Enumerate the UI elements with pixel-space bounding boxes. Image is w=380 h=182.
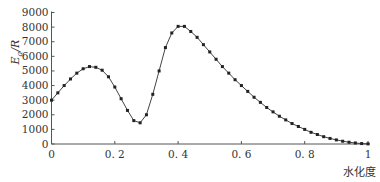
y-axis-label: Ea/R [9,40,24,66]
y-tick-label: 4000 [22,79,49,91]
x-tick-label: 0 [48,148,55,160]
data-point [265,106,268,109]
data-point [367,142,370,145]
data-point [310,131,313,134]
data-point [120,97,123,100]
y-tick-label: 5000 [22,64,49,76]
data-point [56,91,59,94]
data-point [189,30,192,33]
data-point [75,72,78,75]
data-point [303,128,306,131]
y-tick-label: 6000 [22,50,49,62]
y-axis-ticks: 0100020003000400050006000700080009000 [22,6,55,150]
data-line [52,26,369,143]
data-point [253,96,256,99]
data-markers [50,25,370,145]
data-point [145,113,148,116]
data-point [259,101,262,104]
data-point [234,78,237,81]
data-point [183,25,186,28]
data-point [227,72,230,75]
data-point [329,137,332,140]
data-point [88,65,91,68]
data-point [284,118,287,121]
x-tick-label: 0. 6 [231,148,251,160]
y-tick-label: 8000 [22,21,49,33]
data-point [291,122,294,125]
y-tick-label: 3000 [22,94,49,106]
data-point [316,133,319,136]
data-point [170,31,173,34]
data-point [94,66,97,69]
data-point [63,84,66,87]
data-point [322,135,325,138]
data-point [151,93,154,96]
data-point [246,90,249,93]
data-point [240,84,243,87]
data-point [348,141,351,144]
data-point [354,141,357,144]
data-point [196,36,199,39]
x-tick-label: 0. 2 [105,148,125,160]
data-point [177,25,180,28]
y-tick-label: 1000 [22,123,49,135]
line-chart: 0100020003000400050006000700080009000 00… [0,0,380,182]
data-point [215,58,218,61]
data-point [164,46,167,49]
data-point [221,65,224,68]
data-point [139,121,142,124]
data-point [278,115,281,118]
x-axis-label: 水化度 [343,165,376,179]
data-point [272,110,275,113]
data-point [113,86,116,89]
data-point [360,142,363,145]
data-point [126,109,129,112]
data-point [208,50,211,53]
data-point [341,140,344,143]
data-point [101,69,104,72]
data-point [82,67,85,70]
data-point [297,125,300,128]
y-tick-label: 2000 [22,108,49,120]
data-point [69,77,72,80]
x-tick-label: 0. 4 [168,148,188,160]
data-point [158,69,161,72]
x-tick-label: 1 [365,148,372,160]
data-point [132,119,135,122]
data-point [335,138,338,141]
data-point [50,99,53,102]
data-point [107,75,110,78]
y-tick-label: 7000 [22,35,49,47]
data-point [202,43,205,46]
x-tick-label: 0. 8 [295,148,315,160]
y-tick-label: 9000 [22,6,49,18]
